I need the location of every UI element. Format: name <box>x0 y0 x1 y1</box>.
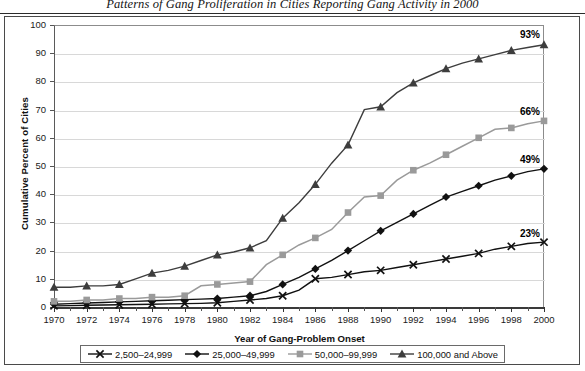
y-axis-tick-label: 0 <box>10 301 46 312</box>
square-marker <box>247 278 254 285</box>
diamond-marker <box>279 280 287 288</box>
y-axis-tick-label: 100 <box>10 19 46 30</box>
figure-container: Patterns of Gang Proliferation in Cities… <box>0 0 585 371</box>
x-axis-tick <box>185 307 186 312</box>
square-marker <box>149 294 156 301</box>
x-axis-title: Year of Gang-Problem Onset <box>54 333 545 344</box>
series-end-label: 66% <box>520 106 540 117</box>
series-3 <box>51 118 548 305</box>
x-axis-tick <box>511 307 512 312</box>
diamond-marker <box>442 193 450 201</box>
legend-item-label: 100,000 and Above <box>417 349 498 360</box>
x-axis-tick <box>283 307 284 312</box>
title-rule <box>0 13 585 14</box>
y-axis-title: Cumulative Percent of Cities <box>19 64 30 264</box>
series-layer <box>54 25 544 307</box>
legend-item-label: 2,500–24,999 <box>115 349 172 360</box>
square-marker <box>279 252 286 259</box>
series-end-label: 23% <box>520 228 540 239</box>
diamond-marker <box>377 227 385 235</box>
x-axis-tick <box>299 307 300 311</box>
diamond-marker <box>409 210 417 218</box>
square-marker <box>312 235 319 242</box>
x-axis-tick <box>446 307 447 312</box>
triangle-marker <box>389 348 415 360</box>
x-axis-tick <box>544 307 545 312</box>
square-marker <box>508 125 515 132</box>
y-axis-tick-label: 10 <box>10 273 46 284</box>
diamond-marker <box>507 172 515 180</box>
x-axis-tick <box>413 307 414 312</box>
series-end-label: 93% <box>520 29 540 40</box>
triangle-marker <box>246 243 255 251</box>
square-marker <box>296 351 303 358</box>
x-axis-tick <box>168 307 169 311</box>
square-marker <box>214 281 221 288</box>
x-axis-tick <box>495 307 496 311</box>
square-marker <box>443 151 450 158</box>
x-axis-tick <box>201 307 202 311</box>
square-marker <box>345 209 352 216</box>
series-line <box>54 242 544 306</box>
x-axis-tick <box>217 307 218 312</box>
diamond-marker <box>184 348 210 360</box>
diamond-marker <box>246 292 254 300</box>
x-axis-tick <box>250 307 251 312</box>
square-marker <box>51 298 58 305</box>
legend-item[interactable]: 2,500–24,999 <box>87 348 172 360</box>
x-axis-tick <box>152 307 153 312</box>
x-axis-tick <box>397 307 398 311</box>
diamond-marker <box>213 294 221 302</box>
x-axis-tick <box>479 307 480 312</box>
x-axis-tick <box>70 307 71 311</box>
series-line <box>54 169 544 304</box>
triangle-marker <box>344 140 353 148</box>
series-line <box>54 45 544 288</box>
diamond-marker <box>344 247 352 255</box>
x-axis-tick <box>364 307 365 311</box>
legend-item-label: 50,000–99,999 <box>315 349 378 360</box>
series-line <box>54 121 544 301</box>
square-marker <box>541 118 548 125</box>
x-axis-tick-label: 2000 <box>524 314 564 325</box>
diamond-marker <box>193 350 201 358</box>
x-axis-tick <box>332 307 333 311</box>
diamond-marker <box>311 265 319 273</box>
x-axis-tick <box>430 307 431 311</box>
square-marker <box>116 295 123 302</box>
y-axis-tick-label: 90 <box>10 47 46 58</box>
square-marker <box>475 135 482 142</box>
square-marker <box>181 292 188 299</box>
x-axis-tick <box>462 307 463 311</box>
legend-item-label: 25,000–49,999 <box>212 349 275 360</box>
x-marker <box>87 348 113 360</box>
series-2 <box>50 165 548 309</box>
x-axis-tick <box>348 307 349 312</box>
x-axis-tick <box>103 307 104 311</box>
x-axis-tick <box>87 307 88 312</box>
figure-title: Patterns of Gang Proliferation in Cities… <box>0 0 585 12</box>
square-marker <box>410 167 417 174</box>
x-axis-tick <box>315 307 316 312</box>
x-axis-tick <box>381 307 382 312</box>
x-axis-tick <box>234 307 235 311</box>
series-end-label: 49% <box>520 154 540 165</box>
legend-item[interactable]: 25,000–49,999 <box>184 348 275 360</box>
square-marker <box>83 297 90 304</box>
triangle-marker <box>409 78 418 86</box>
x-axis-tick <box>266 307 267 311</box>
square-marker <box>287 348 313 360</box>
square-marker <box>377 192 384 199</box>
series-4 <box>50 40 549 291</box>
legend-item[interactable]: 100,000 and Above <box>389 348 498 360</box>
x-axis-tick <box>136 307 137 311</box>
x-axis-tick <box>528 307 529 311</box>
legend-item[interactable]: 50,000–99,999 <box>287 348 378 360</box>
x-axis-tick <box>119 307 120 312</box>
diamond-marker <box>475 182 483 190</box>
chart-legend: 2,500–24,99925,000–49,99950,000–99,99910… <box>80 345 505 363</box>
